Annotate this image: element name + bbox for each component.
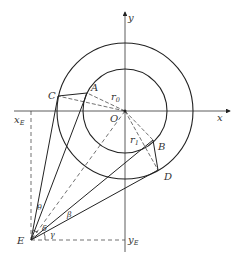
point-label-A: A xyxy=(90,82,98,93)
line-EA xyxy=(31,93,87,240)
line-EC xyxy=(31,96,58,240)
angle-delta-label: δ xyxy=(42,224,47,233)
origin-point xyxy=(124,110,127,113)
yE-label: yE xyxy=(127,234,139,247)
diagram-canvas: x y O A C B D E r0 r1 xE yE θ δ β γ xyxy=(0,0,237,258)
point-label-E: E xyxy=(16,235,25,246)
angle-gamma-label: γ xyxy=(50,230,55,239)
point-label-D: D xyxy=(163,171,172,182)
point-label-B: B xyxy=(157,141,165,152)
xE-label: xE xyxy=(14,114,25,127)
y-axis-label: y xyxy=(127,12,134,23)
x-axis-label: x xyxy=(217,112,223,123)
origin-label: O xyxy=(110,113,118,124)
angle-theta-label: θ xyxy=(37,203,42,212)
segment-CA xyxy=(58,93,87,96)
radius-r0-label: r0 xyxy=(111,91,120,104)
line-EB xyxy=(31,140,153,240)
geometry-diagram: x y O A C B D E r0 r1 xE yE θ δ β γ xyxy=(0,0,237,258)
radius-r1-label: r1 xyxy=(130,134,139,147)
point-label-C: C xyxy=(48,90,56,101)
angle-gamma-arc xyxy=(44,233,45,240)
angle-beta-label: β xyxy=(66,210,72,219)
line-OE xyxy=(31,111,125,240)
